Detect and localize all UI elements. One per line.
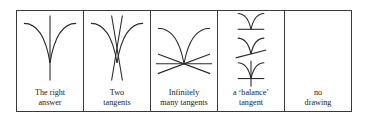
panel-label: a ‘balance’ tangent	[218, 88, 284, 108]
label-line-1: no	[285, 88, 351, 98]
label-line-1: a ‘balance’	[218, 88, 284, 98]
label-line-1: The right	[17, 88, 83, 98]
panel-label: Two tangents	[84, 88, 150, 108]
panel-label: no drawing	[285, 88, 351, 108]
label-line-2: tangent	[218, 98, 284, 108]
figure-frame: The right answer Two tangents	[16, 10, 352, 112]
cusps-balance-tangent-drawing	[218, 11, 284, 87]
panel-balance-tangent: a ‘balance’ tangent	[218, 11, 285, 111]
label-line-2: drawing	[285, 98, 351, 108]
panel-no-drawing: no drawing	[285, 11, 351, 111]
panel-infinitely-many: Infinitely many tangents	[151, 11, 218, 111]
cusp-vertical-tangent-drawing	[17, 11, 83, 87]
label-line-1: Infinitely	[151, 88, 217, 98]
cusp-two-tangents-drawing	[84, 11, 150, 87]
panel-label: Infinitely many tangents	[151, 88, 217, 108]
panel-right-answer: The right answer	[17, 11, 84, 111]
label-line-2: many tangents	[151, 98, 217, 108]
label-line-2: answer	[17, 98, 83, 108]
label-line-2: tangents	[84, 98, 150, 108]
cusp-fan-of-tangents-drawing	[151, 11, 217, 87]
label-line-1: Two	[84, 88, 150, 98]
panel-two-tangents: Two tangents	[84, 11, 151, 111]
panel-label: The right answer	[17, 88, 83, 108]
